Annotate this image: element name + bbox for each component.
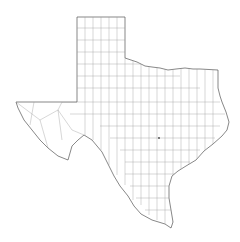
city-dot: [158, 137, 160, 139]
texas-county-map: [0, 0, 240, 242]
map-container: [0, 0, 240, 242]
